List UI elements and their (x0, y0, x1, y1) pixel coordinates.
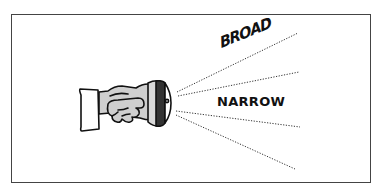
flashlight-illustration (0, 0, 385, 192)
beam-narrow-lower (176, 111, 300, 127)
beam-narrow-upper (178, 72, 299, 96)
flashlight-icon (80, 81, 171, 131)
beam-broad-lower (176, 115, 295, 169)
label-narrow: NARROW (217, 94, 285, 109)
